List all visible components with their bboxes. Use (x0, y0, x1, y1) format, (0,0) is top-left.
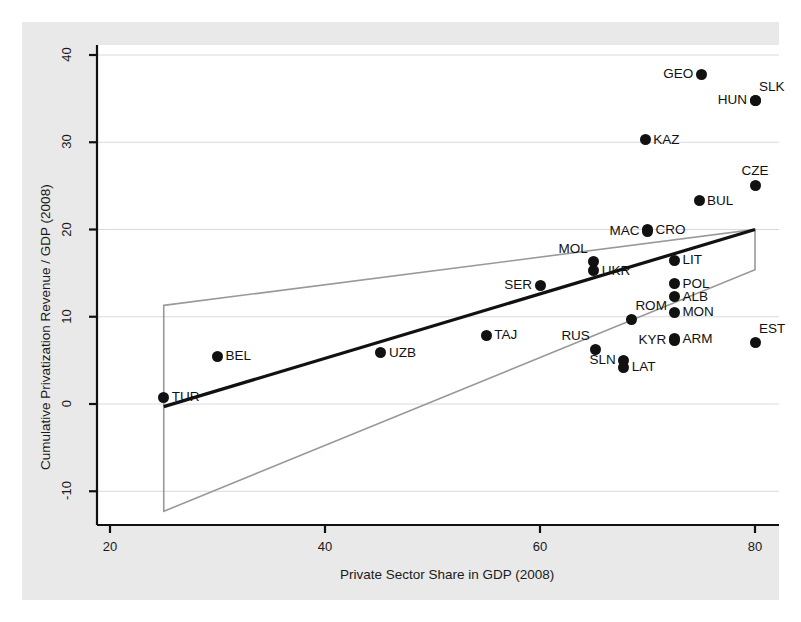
data-point-taj (481, 330, 492, 341)
point-label-cze: CZE (742, 163, 769, 177)
figure-root: Cumulative Privatization Revenue / GDP (… (0, 0, 801, 622)
y-tick-label: -10 (59, 477, 74, 505)
data-point-bel (212, 351, 223, 362)
x-tick-label: 60 (525, 539, 555, 554)
point-label-arm: ARM (682, 332, 712, 346)
point-label-taj: TAJ (494, 328, 517, 342)
x-tick-label: 40 (310, 539, 340, 554)
x-axis-title: Private Sector Share in GDP (2008) (340, 567, 554, 582)
data-point-lit (669, 255, 680, 266)
data-point-pol (669, 278, 680, 289)
point-label-mac: MAC (610, 224, 640, 238)
data-point-ser (535, 280, 546, 291)
data-point-cze (750, 180, 761, 191)
point-label-slk: SLK (759, 81, 785, 95)
point-label-bul: BUL (707, 194, 733, 208)
point-label-hun: HUN (718, 94, 747, 108)
point-label-kaz: KAZ (653, 133, 679, 147)
y-tick-label: 0 (59, 390, 74, 418)
x-tick-label: 80 (740, 539, 770, 554)
data-point-rom (626, 314, 637, 325)
point-label-geo: GEO (663, 67, 693, 81)
y-tick-label: 30 (59, 128, 74, 156)
point-label-tur: TUR (172, 390, 200, 404)
data-point-bul (694, 195, 705, 206)
point-label-pol: POL (682, 277, 709, 291)
point-label-mon: MON (682, 306, 714, 320)
point-label-ukr: UKR (602, 264, 631, 278)
point-label-rus: RUS (561, 329, 590, 343)
point-label-est: EST (759, 322, 785, 336)
x-tick-label: 20 (95, 539, 125, 554)
point-label-rom: ROM (635, 300, 667, 314)
data-point-est (750, 337, 761, 348)
data-point-arm (669, 333, 680, 344)
y-tick-label: 10 (59, 302, 74, 330)
point-label-kyr: KYR (639, 334, 667, 348)
point-label-lat: LAT (632, 361, 656, 375)
point-label-ser: SER (504, 279, 532, 293)
data-point-tur (158, 392, 169, 403)
data-point-kaz (640, 134, 651, 145)
data-point-cro (642, 224, 653, 235)
y-tick-label: 20 (59, 215, 74, 243)
point-label-alb: ALB (682, 290, 708, 304)
y-axis-title: Cumulative Privatization Revenue / GDP (… (38, 184, 53, 470)
data-point-mon (669, 307, 680, 318)
point-label-sln: SLN (590, 354, 616, 368)
y-tick-label: 40 (59, 41, 74, 69)
data-point-geo (696, 69, 707, 80)
point-label-uzb: UZB (389, 346, 416, 360)
point-label-cro: CRO (656, 223, 686, 237)
data-point-alb (669, 291, 680, 302)
point-label-mol: MOL (558, 242, 587, 256)
point-label-lit: LIT (682, 253, 702, 267)
data-point-slk (750, 95, 761, 106)
point-label-bel: BEL (226, 349, 252, 363)
